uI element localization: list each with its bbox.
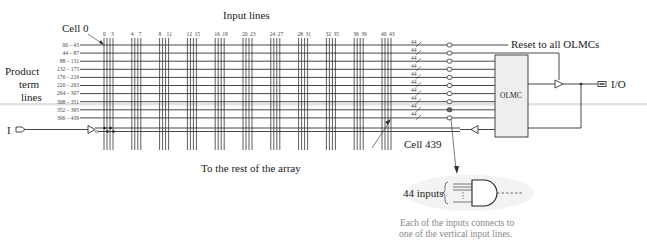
junction-dot — [106, 130, 109, 133]
io-feedback-wire — [528, 84, 581, 128]
bus-width-label: 44 — [411, 55, 417, 61]
column-label-end: 31 — [306, 31, 312, 37]
svg-text:Product: Product — [5, 65, 39, 77]
column-label-end: 27 — [278, 31, 284, 37]
product-term-range-label: 308 – 351 — [57, 99, 79, 105]
column-label-end: 23 — [250, 31, 256, 37]
column-label-start: 20 — [242, 31, 248, 37]
bus-slash — [416, 42, 421, 47]
product-term-rows: 00 – 434444 – 874488 – 13144132 – 175441… — [57, 39, 495, 121]
cell-439-label: Cell 439 — [404, 138, 442, 150]
io-pin-label: I/O — [611, 78, 626, 90]
bus-slash — [416, 58, 421, 63]
bus-width-label: 44 — [411, 95, 417, 101]
product-term-range-label: 220 – 263 — [57, 82, 79, 88]
bus-width-label: 44 — [411, 79, 417, 85]
cell-0-arrowhead — [99, 40, 104, 45]
bus-width-label: 44 — [411, 63, 417, 69]
bus-slash — [416, 91, 421, 96]
detail-arrow — [451, 119, 456, 170]
column-labels: 034781112151619202324272831323536394043 — [103, 31, 395, 37]
junction-dot — [103, 127, 106, 130]
product-term-range-label: 00 – 43 — [63, 42, 80, 48]
column-label-start: 0 — [103, 31, 106, 37]
and-gate-symbol — [447, 75, 452, 79]
column-label-end: 11 — [167, 31, 173, 37]
olmc-label: OLMC — [500, 91, 522, 100]
and-gate-symbol — [447, 100, 452, 104]
caption-line-1: Each of the inputs connects to — [400, 218, 514, 228]
and-gate-symbol — [447, 67, 452, 71]
column-label-start: 32 — [325, 31, 331, 37]
logic-array-diagram: Input lines Cell 0 Product term lines 03… — [0, 0, 647, 241]
column-label-end: 7 — [139, 31, 142, 37]
product-term-range-label: 44 – 87 — [63, 50, 80, 56]
input-pin-label: I — [7, 124, 11, 136]
bus-width-label: 44 — [411, 47, 417, 53]
detail-arrowhead — [454, 166, 459, 174]
column-label-start: 36 — [353, 31, 359, 37]
product-term-range-label: 352 – 395 — [57, 107, 79, 113]
and-gate-symbol — [447, 51, 452, 55]
column-label-start: 4 — [131, 31, 134, 37]
column-label-start: 16 — [214, 31, 220, 37]
junction-dot — [109, 127, 112, 130]
column-label-end: 3 — [111, 31, 114, 37]
and-gate-symbol — [447, 43, 452, 47]
feedback-buffer-icon — [471, 126, 478, 134]
bus-width-label: 44 — [411, 71, 417, 77]
and-gate-symbol — [447, 84, 452, 88]
column-label-start: 28 — [298, 31, 304, 37]
column-label-start: 40 — [381, 31, 387, 37]
bus-slash — [416, 66, 421, 71]
column-label-end: 43 — [389, 31, 395, 37]
bus-slash — [416, 107, 421, 112]
and-gate-icon — [472, 180, 497, 206]
bus-width-label: 44 — [411, 87, 417, 93]
and-gate-symbol — [447, 59, 452, 63]
column-label-start: 24 — [270, 31, 276, 37]
caption-line-2: one of the vertical input lines. — [399, 229, 512, 239]
column-label-end: 39 — [361, 31, 367, 37]
svg-text:term: term — [19, 78, 40, 90]
column-label-start: 8 — [159, 31, 162, 37]
product-term-range-label: 176 – 219 — [57, 74, 79, 80]
input-lines-label: Input lines — [223, 9, 270, 21]
bus-slash — [416, 115, 421, 120]
column-label-start: 12 — [186, 31, 192, 37]
bus-slash — [416, 83, 421, 88]
and-gate-symbol — [447, 108, 452, 112]
bus-slash — [416, 99, 421, 104]
product-term-lines-label: Product term lines — [5, 65, 42, 103]
rest-of-array-label: To the rest of the array — [201, 162, 301, 174]
output-buffer-icon — [555, 80, 563, 88]
and-inputs-label: 44 inputs — [403, 187, 444, 199]
bus-width-label: 44 — [411, 103, 417, 109]
product-term-range-label: 264 – 307 — [57, 90, 79, 96]
input-pin-symbol — [16, 127, 25, 132]
reset-label: Reset to all OLMCs — [511, 38, 599, 50]
column-label-end: 15 — [194, 31, 200, 37]
column-label-end: 19 — [222, 31, 228, 37]
svg-text:lines: lines — [21, 91, 42, 103]
junction-dot — [112, 130, 115, 133]
product-term-range-label: 88 – 131 — [60, 58, 80, 64]
product-term-range-label: 132 – 175 — [57, 66, 79, 72]
product-term-range-label: 396 – 439 — [57, 115, 79, 121]
bus-slash — [416, 74, 421, 79]
bus-width-label: 44 — [411, 111, 417, 117]
input-buffer-icon — [88, 126, 98, 134]
bus-slash — [416, 50, 421, 55]
column-label-end: 35 — [333, 31, 339, 37]
bus-width-label: 44 — [411, 39, 417, 45]
io-pin-symbol — [598, 82, 606, 87]
and-gate-symbol — [447, 92, 452, 96]
cell-0-label: Cell 0 — [62, 22, 89, 34]
scan-stripe — [0, 103, 647, 106]
cell-439-arrow — [372, 121, 390, 148]
